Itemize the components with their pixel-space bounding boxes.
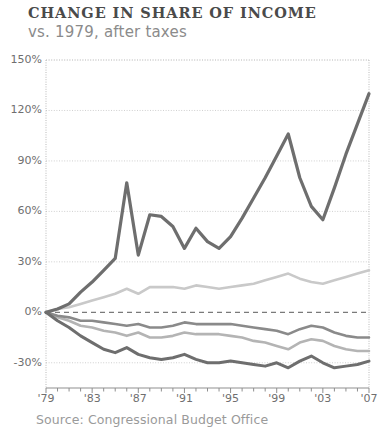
x-axis-tick-label: '07 (360, 392, 377, 405)
x-axis-tick-label: '95 (222, 392, 239, 405)
chart-source-note: Source: Congressional Budget Office (36, 412, 268, 427)
x-axis-tick-label: '03 (314, 392, 331, 405)
x-axis-tick-label: '87 (130, 392, 147, 405)
x-axis-tick-label: '79 (37, 392, 54, 405)
x-axis-tick-label: '83 (84, 392, 101, 405)
x-axis-tick-label: '99 (268, 392, 285, 405)
x-axis-tick-label: '91 (176, 392, 193, 405)
